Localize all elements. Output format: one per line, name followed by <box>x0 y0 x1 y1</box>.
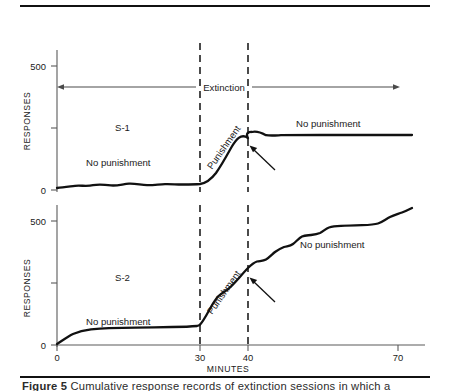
panel-s1-y-axis-title: RESPONSES <box>22 92 32 150</box>
panel-s1-ytick-label-500: 500 <box>30 61 46 72</box>
panel-s2-xtick-label-0: 0 <box>54 352 59 363</box>
panel-s2-pointer-annotation <box>250 278 276 302</box>
cumulative-response-chart: 500 0 RESPONSES Extinction S-1 No punish… <box>0 0 450 375</box>
panel-s2-xtick-label-30: 30 <box>195 352 205 363</box>
x-axis-title: MINUTES <box>207 364 250 374</box>
panel-s2: 500 0 RESPONSES 0 30 40 70 MINUTES S-2 N… <box>22 205 425 374</box>
figure-caption-text: Cumulative response records of extinctio… <box>70 380 390 391</box>
panel-s2-xtick-label-70: 70 <box>393 352 403 363</box>
figure-caption-label: Figure 5 <box>22 380 67 391</box>
panel-s1-ytick-label-0: 0 <box>41 185 46 196</box>
panel-s2-subject-label: S-2 <box>115 272 130 283</box>
panel-s2-xtick-label-40: 40 <box>243 352 253 363</box>
panel-s1-pointer-annotation <box>250 146 276 170</box>
panel-s1-subject-label: S-1 <box>115 122 130 133</box>
panel-s2-y-axis-title: RESPONSES <box>22 259 32 317</box>
panel-s1-label-punishment: Punishment <box>205 123 243 171</box>
panel-s2-ytick-label-500: 500 <box>30 216 46 227</box>
extinction-arrowhead-left <box>57 84 64 90</box>
panel-s1: 500 0 RESPONSES Extinction S-1 No punish… <box>22 43 412 196</box>
figure-caption-rule <box>20 376 430 378</box>
figure-container: 500 0 RESPONSES Extinction S-1 No punish… <box>0 0 450 391</box>
panel-s2-label-no-punishment-post: No punishment <box>300 239 365 250</box>
panel-s1-label-no-punishment-pre: No punishment <box>86 157 151 168</box>
extinction-label: Extinction <box>203 82 245 93</box>
figure-caption: Figure 5 Cumulative response records of … <box>22 380 428 391</box>
panel-s1-label-no-punishment-post: No punishment <box>296 118 361 129</box>
panel-s1-pointer-shaft <box>253 149 275 170</box>
extinction-span-annotation: Extinction <box>57 82 400 93</box>
panel-s2-ytick-label-0: 0 <box>41 340 46 351</box>
panel-s2-pointer-shaft <box>253 281 275 302</box>
panel-s2-label-no-punishment-pre: No punishment <box>86 316 151 327</box>
extinction-arrowhead-right <box>393 84 400 90</box>
